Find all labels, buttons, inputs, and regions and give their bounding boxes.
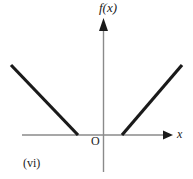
function-graph-figure: f(x) x O (vi) (0, 0, 193, 179)
x-axis-arrow-icon (163, 131, 173, 140)
origin-label: O (91, 135, 100, 147)
left-branch-segment (11, 65, 78, 135)
graph-plot-area (0, 0, 193, 179)
right-branch-segment (122, 65, 182, 135)
y-axis-arrow-icon (99, 18, 108, 31)
figure-caption: (vi) (23, 157, 40, 169)
y-axis-label: f(x) (99, 1, 117, 14)
x-axis-label: x (177, 128, 182, 140)
